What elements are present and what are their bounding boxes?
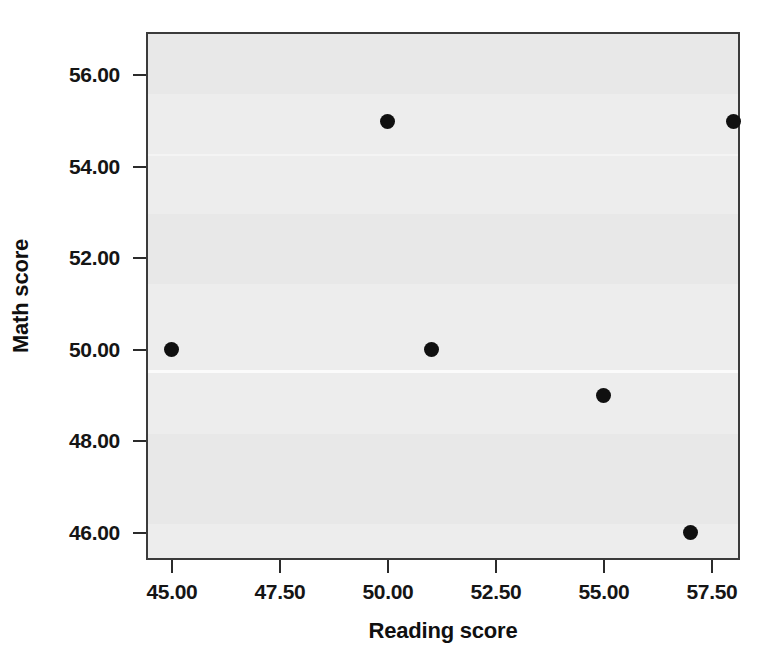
y-tick-mark [133, 440, 146, 442]
scan-artifact-line [148, 370, 738, 373]
data-point [726, 114, 741, 129]
y-axis-title: Math score [8, 146, 34, 446]
x-tick-label: 57.50 [652, 580, 769, 604]
plot-area [146, 32, 740, 560]
data-point [424, 342, 439, 357]
y-tick-mark [133, 532, 146, 534]
x-tick-label: 52.50 [436, 580, 556, 604]
x-tick-label: 50.00 [328, 580, 448, 604]
y-tick-mark [133, 74, 146, 76]
data-point [380, 114, 395, 129]
scan-artifact-band [148, 34, 738, 94]
x-axis-title: Reading score [146, 618, 740, 644]
x-tick-mark [711, 560, 713, 573]
x-tick-mark [387, 560, 389, 573]
y-tick-mark [133, 257, 146, 259]
y-tick-mark [133, 166, 146, 168]
scan-artifact-band [148, 214, 738, 284]
y-tick-label: 56.00 [0, 63, 120, 87]
data-point [683, 525, 698, 540]
x-tick-mark [495, 560, 497, 573]
x-tick-label: 47.50 [220, 580, 340, 604]
scan-artifact-band [148, 434, 738, 524]
scatter-plot-figure: 45.0047.5050.0052.5055.0057.50 46.0048.0… [0, 0, 769, 668]
x-tick-label: 45.00 [112, 580, 232, 604]
y-tick-mark [133, 349, 146, 351]
x-tick-label: 55.00 [544, 580, 664, 604]
x-tick-mark [171, 560, 173, 573]
x-tick-mark [279, 560, 281, 573]
x-tick-mark [603, 560, 605, 573]
scan-artifact-line [148, 154, 738, 156]
y-tick-label: 46.00 [0, 521, 120, 545]
